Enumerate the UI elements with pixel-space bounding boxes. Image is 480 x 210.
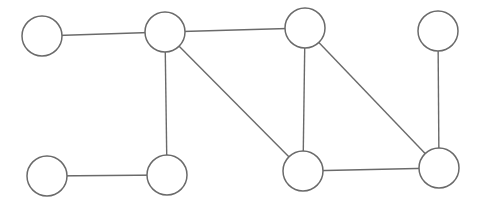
edges-layer (42, 28, 439, 176)
node-c (285, 8, 325, 48)
node-h (419, 148, 459, 188)
nodes-layer (22, 8, 459, 196)
edge-b-c (165, 28, 305, 32)
node-g (283, 151, 323, 191)
node-f (147, 155, 187, 195)
edge-c-h (305, 28, 439, 168)
node-b (145, 12, 185, 52)
edge-c-g (303, 28, 305, 171)
edge-b-f (165, 32, 167, 175)
graph-diagram (0, 0, 480, 210)
node-e (27, 156, 67, 196)
node-d (418, 11, 458, 51)
edge-b-g (165, 32, 303, 171)
node-a (22, 16, 62, 56)
